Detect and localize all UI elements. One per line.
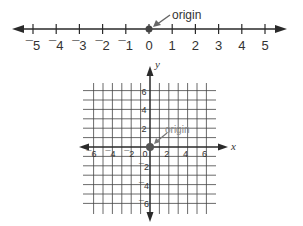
origin-label: origin	[172, 8, 201, 22]
number-line: ¯5¯4¯3¯2¯1012345 origin	[12, 8, 287, 53]
x-tick-label: 2	[164, 149, 169, 159]
tick-label: 5	[261, 38, 268, 53]
diagram-canvas: ¯5¯4¯3¯2¯1012345 origin x y ¯6¯4¯2024664…	[0, 0, 303, 226]
y-tick-label: 4	[141, 105, 146, 115]
x-tick-label: ¯2	[123, 149, 134, 159]
tick-label: 2	[192, 38, 199, 53]
x-axis-label: x	[230, 140, 236, 152]
origin-point	[146, 26, 153, 33]
y-tick-label: 6	[141, 87, 146, 97]
y-tick-label: 2	[141, 124, 146, 134]
origin-label: origin	[165, 124, 189, 135]
y-axis-label: y	[154, 58, 160, 70]
x-tick-label: 4	[183, 149, 188, 159]
x-tick-label: ¯6	[86, 149, 97, 159]
y-arrow-icon	[147, 66, 154, 76]
x-tick-label: ¯4	[104, 149, 115, 159]
tick-label: 0	[145, 38, 152, 53]
tick-label: ¯1	[118, 38, 133, 53]
tick-label: 1	[169, 38, 176, 53]
y-tick-label: ¯6	[138, 199, 149, 209]
x-arrow-icon	[218, 144, 228, 151]
origin-point	[146, 143, 154, 151]
tick-label: ¯3	[71, 38, 86, 53]
tick-label: ¯4	[48, 38, 63, 53]
tick-label: 4	[238, 38, 245, 53]
tick-label: ¯5	[25, 38, 40, 53]
right-arrow-icon	[275, 25, 287, 33]
left-arrow-icon	[12, 25, 24, 33]
y-tick-label: ¯4	[138, 181, 149, 191]
tick-label: ¯2	[94, 38, 109, 53]
coordinate-plane: x y ¯6¯4¯20246642¯2¯4¯6 origin	[79, 58, 236, 222]
y-tick-label: ¯2	[138, 162, 149, 172]
x-tick-label: 6	[202, 149, 207, 159]
x-tick-label: 0	[142, 149, 147, 159]
tick-label: 3	[215, 38, 222, 53]
